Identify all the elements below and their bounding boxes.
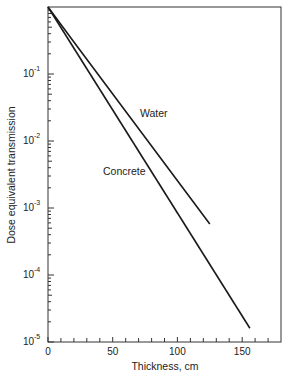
svg-text:10: 10 [23, 336, 35, 347]
svg-text:-3: -3 [34, 199, 40, 206]
figure-caption-cutoff [40, 378, 288, 385]
svg-text:-4: -4 [34, 266, 40, 273]
series-label-concrete: Concrete [103, 165, 146, 177]
series-line-water [48, 7, 210, 224]
svg-text:10: 10 [23, 269, 35, 280]
x-tick-label-50: 50 [107, 346, 119, 357]
transmission-chart: 0 50 100 150 10 -1 10 -2 10 -3 10 -4 10 … [0, 0, 288, 385]
y-tick-label-1e-3: 10 -3 [23, 199, 40, 213]
x-tick-label-150: 150 [234, 346, 251, 357]
svg-text:-2: -2 [34, 132, 40, 139]
y-tick-label-1e-4: 10 -4 [23, 266, 40, 280]
svg-text:10: 10 [23, 135, 35, 146]
y-tick-label-1e-1: 10 -1 [23, 65, 40, 79]
svg-text:-5: -5 [34, 333, 40, 340]
series-layer [48, 7, 250, 328]
svg-text:-1: -1 [34, 65, 40, 72]
series-line-concrete [48, 7, 250, 328]
x-axis-title: Thickness, cm [131, 360, 198, 372]
y-axis-title: Dose equivalent transmission [5, 106, 17, 243]
y-tick-label-1e-2: 10 -2 [23, 132, 40, 146]
x-tick-label-100: 100 [169, 346, 186, 357]
y-axis-ticks [48, 10, 54, 342]
x-tick-label-0: 0 [45, 346, 51, 357]
x-axis-ticks [48, 337, 268, 342]
svg-text:10: 10 [23, 202, 35, 213]
series-label-water: Water [140, 107, 168, 119]
plot-frame [48, 7, 281, 342]
svg-text:10: 10 [23, 68, 35, 79]
y-tick-label-1e-5: 10 -5 [23, 333, 40, 347]
